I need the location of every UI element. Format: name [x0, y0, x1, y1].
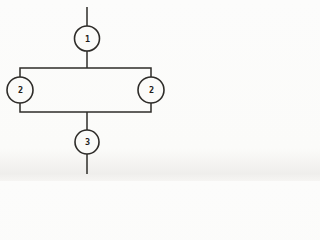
- block-diagram: 1 2 2 3: [0, 0, 173, 181]
- node-2-right-label: 2: [149, 85, 154, 95]
- node-2-left-label: 2: [18, 85, 23, 95]
- parallel-branch-box: [20, 68, 151, 112]
- node-3-label: 3: [85, 137, 90, 147]
- diagram-canvas: 1 2 2 3: [0, 0, 173, 181]
- node-1-label: 1: [85, 34, 90, 44]
